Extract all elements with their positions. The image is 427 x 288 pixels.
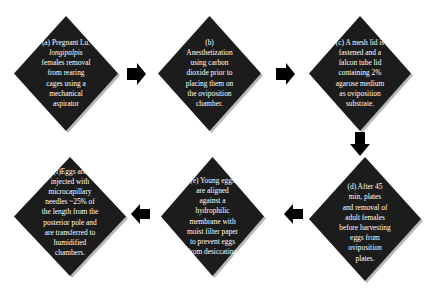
step-d-line-7: oviposition <box>348 243 381 253</box>
step-d-line-3: and removal of <box>343 203 388 213</box>
step-c-line-1: (c) A mesh lid is <box>336 38 384 48</box>
step-f-text: (f)Eggs are injected with microcapillary… <box>14 157 126 276</box>
step-e-line-5: membrane with <box>189 217 235 227</box>
step-e-line-2: are aligned <box>196 186 229 196</box>
step-c-line-3: falcon tube lid <box>339 58 382 68</box>
step-b-line-4: dioxide prior to <box>187 68 233 78</box>
step-b-line-1: (b) <box>205 38 214 48</box>
step-f-line-9: chambers. <box>55 248 85 258</box>
step-e-line-4: hydrophilic <box>195 206 229 216</box>
step-c-line-7: substrate. <box>346 99 374 109</box>
step-c-line-6: as oviposition <box>339 89 380 99</box>
step-f-line-2: injected with <box>51 177 89 187</box>
step-c-line-4: containing 2% <box>339 68 382 78</box>
step-e-line-3: against a <box>199 196 225 206</box>
step-a-text: (a) Pregnant Lu. longipalpis females rem… <box>14 16 118 131</box>
step-e-line-8: from desiccating <box>188 247 237 257</box>
step-e-diamond: (e) Young eggs are aligned against a hyd… <box>161 157 264 276</box>
step-f-line-8: humidified <box>54 238 86 248</box>
arrow-down-icon <box>350 132 370 156</box>
step-f-line-6: posterior pole and <box>43 218 96 228</box>
step-d-diamond: (d) After 45 min, plates and removal of … <box>309 157 421 281</box>
step-d-line-4: adult females <box>345 213 385 223</box>
step-f-line-3: microcapillary <box>48 187 91 197</box>
step-d-line-1: (d) After 45 <box>348 182 383 192</box>
step-c-line-2: fastened and a <box>339 48 381 58</box>
step-e-line-6: moist filter paper <box>187 227 238 237</box>
step-a-diamond: (a) Pregnant Lu. longipalpis females rem… <box>14 16 118 131</box>
step-b-line-6: the oviposition <box>187 89 231 99</box>
step-d-line-8: plates. <box>355 254 374 264</box>
step-c-diamond: (c) A mesh lid is fastened and a falcon … <box>309 16 411 131</box>
arrow-left-icon <box>284 204 303 224</box>
step-a-line-3: females removal <box>41 58 90 68</box>
step-a-line-4: from rearing <box>47 68 84 78</box>
step-b-line-2: Anesthetization <box>186 48 232 58</box>
step-a-line-2: longipalpis <box>49 48 82 58</box>
step-b-text: (b) Anesthetization using carbon dioxide… <box>158 16 261 131</box>
step-e-text: (e) Young eggs are aligned against a hyd… <box>161 157 264 276</box>
step-a-line-5: cages using a <box>46 79 85 89</box>
step-c-text: (c) A mesh lid is fastened and a falcon … <box>309 16 411 131</box>
arrow-right-icon <box>127 63 146 85</box>
arrow-left-icon <box>131 204 150 224</box>
step-a-line-7: aspirator <box>53 99 79 109</box>
step-d-line-6: eggs from <box>350 233 380 243</box>
arrow-right-icon <box>276 63 295 85</box>
step-a-line-1: (a) Pregnant Lu. <box>42 38 90 47</box>
step-f-line-1: (f)Eggs are <box>53 167 86 177</box>
step-a-line-6: mechanical <box>49 89 83 99</box>
step-b-line-5: placing them on <box>186 79 234 89</box>
step-e-line-1: (e) Young eggs <box>190 176 235 186</box>
step-d-line-2: min, plates <box>349 192 381 202</box>
step-e-line-7: to prevent eggs <box>190 237 235 247</box>
step-f-line-4: needles ~25% of <box>45 197 95 207</box>
step-f-line-5: the length from the <box>42 207 98 217</box>
step-f-diamond: (f)Eggs are injected with microcapillary… <box>14 157 126 276</box>
step-b-line-7: chamber. <box>196 99 223 109</box>
step-b-line-3: using carbon <box>191 58 229 68</box>
step-b-diamond: (b) Anesthetization using carbon dioxide… <box>158 16 261 131</box>
step-f-line-7: are transferred to <box>45 228 95 238</box>
step-d-text: (d) After 45 min, plates and removal of … <box>309 157 421 281</box>
step-line: (a) Pregnant Lu. <box>42 38 90 48</box>
step-d-line-5: before harvesting <box>339 223 391 233</box>
step-c-line-5: agarose medium <box>336 79 385 89</box>
